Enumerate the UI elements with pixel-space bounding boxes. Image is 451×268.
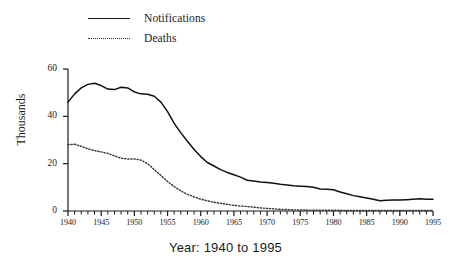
x-tick-label: 1975 xyxy=(283,219,317,227)
x-tick-label: 1970 xyxy=(250,219,284,227)
x-tick-label: 1950 xyxy=(117,219,151,227)
chart-canvas xyxy=(0,0,451,268)
x-tick-label: 1990 xyxy=(383,219,417,227)
axis-lines xyxy=(68,69,433,211)
y-tick-label: 60 xyxy=(35,64,57,74)
x-tick-label: 1940 xyxy=(51,219,85,227)
series-line-notifications xyxy=(68,83,433,201)
x-tick-label: 1995 xyxy=(416,219,450,227)
plot-area: 0204060 19401945195019551960196519701975… xyxy=(0,0,451,268)
y-tick-label: 0 xyxy=(35,206,57,216)
x-tick-label: 1955 xyxy=(151,219,185,227)
x-axis-ticks xyxy=(68,211,433,216)
x-tick-label: 1985 xyxy=(350,219,384,227)
y-axis-title: Thousands xyxy=(14,75,29,165)
y-tick-label: 40 xyxy=(35,111,57,121)
chart-page: Notifications Deaths 0204060 19401945195… xyxy=(0,0,451,268)
x-tick-label: 1980 xyxy=(316,219,350,227)
x-axis-title: Year: 1940 to 1995 xyxy=(0,240,451,255)
y-tick-label: 20 xyxy=(35,159,57,169)
y-axis-ticks xyxy=(63,69,68,211)
x-tick-label: 1960 xyxy=(184,219,218,227)
x-tick-label: 1945 xyxy=(84,219,118,227)
x-tick-label: 1965 xyxy=(217,219,251,227)
